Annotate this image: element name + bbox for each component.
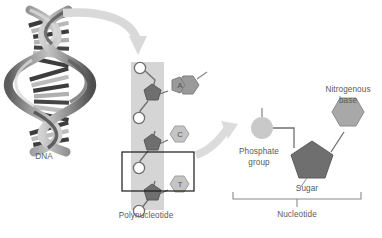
label-polynucleotide: Polynucleotide [119,211,174,221]
diagram-canvas [0,0,382,238]
sugar-pentagon-large [291,141,333,178]
sugar-base-bond [331,132,344,152]
arrow-polynucleotide-to-nucleotide [196,121,238,155]
phosphate-group-circle [251,117,273,139]
label-phosphate-group-line2: group [248,158,269,168]
label-phosphate-group-line1: Phosphate [239,147,279,157]
label-nitrogenous-base-line1: Nitrogenous [325,85,370,95]
base-letter-adenine: A [177,81,182,90]
phosphate-circle [134,62,145,73]
label-nucleotide: Nucleotide [277,210,317,220]
polynucleotide-strand [122,62,207,217]
dna-double-helix [8,10,92,152]
phosphate-circle [133,162,144,173]
label-dna: DNA [35,152,53,162]
dna-nucleotide-diagram: DNA Polynucleotide Phosphate group Nitro… [0,0,382,238]
base-letter-cytosine: C [177,130,182,139]
arrow-dna-to-polynucleotide [63,12,147,55]
phosphate-sugar-bond [273,128,294,148]
nucleotide-bracket [233,192,361,207]
label-sugar: Sugar [296,184,318,194]
label-nitrogenous-base-line2: base [339,96,357,106]
base-letter-thymine: T [178,180,183,189]
phosphate-circle [133,112,144,123]
